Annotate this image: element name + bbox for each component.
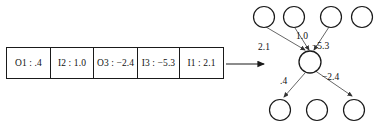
graph-node-bottom — [307, 100, 328, 121]
graph-node-top — [321, 7, 342, 28]
graph-node-top — [254, 7, 275, 28]
edge-label-outgoing: −2.4 — [322, 72, 339, 82]
array-cell: I1 : 2.1 — [180, 48, 223, 78]
array-table: O1 : .4 I2 : 1.0 O3 : −2.4 I3 : −5.3 I1 … — [6, 47, 224, 79]
graph-node-bottom — [270, 100, 291, 121]
array-cell: O1 : .4 — [7, 48, 51, 78]
figure-canvas: O1 : .4 I2 : 1.0 O3 : −2.4 I3 : −5.3 I1 … — [0, 0, 380, 132]
edge-label-incoming: 2.1 — [258, 42, 270, 52]
array-cell: O3 : −2.4 — [94, 48, 138, 78]
graph-node-bottom — [344, 100, 365, 121]
graph-diagram — [248, 0, 380, 132]
graph-edge-outgoing — [284, 73, 305, 97]
graph-node-top — [352, 7, 373, 28]
edge-label-incoming: −5.3 — [312, 41, 329, 51]
graph-node-center — [299, 51, 321, 73]
graph-node-top — [284, 7, 305, 28]
edge-label-outgoing: .4 — [280, 76, 287, 86]
edge-label-incoming: 1.0 — [296, 31, 308, 41]
array-cell: I3 : −5.3 — [138, 48, 180, 78]
array-cell: I2 : 1.0 — [51, 48, 94, 78]
